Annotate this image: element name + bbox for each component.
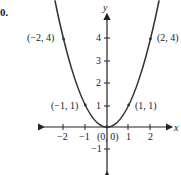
y-tick-label: 4	[96, 32, 101, 43]
x-tick-label: −1	[79, 131, 90, 142]
parabola-chart: x y −2 −1 1 2 4 3 2 1 −1 (−2, 4) (−1, 1)…	[0, 0, 181, 175]
y-tick-label: 2	[96, 77, 101, 88]
point-label-neg1-1: (−1, 1)	[51, 100, 78, 112]
y-axis-label: y	[102, 2, 108, 13]
point-label-2-4: (2, 4)	[157, 32, 179, 44]
y-tick-label: 3	[96, 55, 101, 66]
point-label-origin: (0, 0)	[97, 131, 119, 143]
point-label-1-1: (1, 1)	[135, 100, 157, 112]
x-tick-label: 1	[126, 131, 131, 142]
point-label-neg2-4: (−2, 4)	[27, 32, 54, 44]
y-tick-label: 1	[96, 100, 101, 111]
y-tick-label: −1	[91, 143, 102, 154]
x-tick-label: −2	[57, 131, 68, 142]
x-tick-label: 2	[148, 131, 153, 142]
x-axis-label: x	[173, 122, 179, 133]
